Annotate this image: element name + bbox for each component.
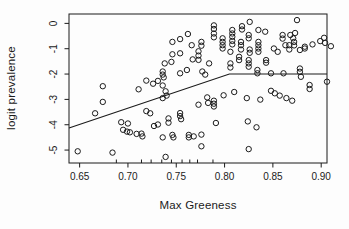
data-point [119,120,124,125]
data-point [280,36,285,41]
data-point [205,95,210,100]
data-point [230,42,235,47]
data-point [136,87,141,92]
data-point [190,57,195,62]
y-axis-tick-label: -1 [48,44,59,53]
data-point [247,19,252,24]
data-point [256,27,261,32]
data-point [169,59,174,64]
data-point [292,30,297,35]
scatter-plot-canvas: 0.650.700.750.800.850.900-1-2-3-4-5 Max … [0,0,349,229]
data-point [185,31,190,36]
x-axis-tick-label: 0.90 [311,171,331,182]
data-point [245,119,250,124]
data-point [298,74,303,79]
data-point [268,71,273,76]
data-point [92,111,97,116]
data-point [75,149,80,154]
data-point [263,29,268,34]
data-point [144,78,149,83]
x-axis-title: Max Greeness [159,199,236,211]
data-point [221,93,226,98]
data-point [321,35,326,40]
data-point [247,50,252,55]
x-axis-tick-label: 0.80 [215,171,235,182]
data-point [199,43,204,48]
data-point [246,36,251,41]
data-point [246,146,251,151]
y-axis-tick-label: -2 [48,69,59,78]
data-point [228,49,233,54]
data-point [199,144,204,149]
data-point [258,97,263,102]
x-axis-tick-label: 0.75 [167,171,187,182]
data-point [244,95,249,100]
data-point [291,36,296,41]
data-point [328,44,333,49]
data-point [254,125,259,130]
data-point [163,154,168,159]
data-point [307,86,312,91]
data-point [284,95,289,100]
x-axis-tick-label: 0.85 [263,171,283,182]
data-point [246,64,251,69]
data-point [177,51,182,56]
data-point [294,17,299,22]
data-point [256,49,261,54]
data-point [177,71,182,76]
data-point [160,135,165,140]
data-point [162,61,167,66]
data-point [199,132,204,137]
data-point [290,98,295,103]
scatter-figure: 0.650.700.750.800.850.900-1-2-3-4-5 Max … [0,0,349,229]
data-point [310,42,315,47]
data-point [239,27,244,32]
data-point [281,71,286,76]
data-point [170,52,175,57]
y-axis-tick-label: 0 [48,20,59,26]
data-point [196,102,201,107]
data-point [160,83,165,88]
data-point [236,57,241,62]
data-point [177,36,182,41]
y-axis-tick-label: -4 [48,120,59,129]
data-point [100,84,105,89]
plot-area: 0.650.700.750.800.850.900-1-2-3-4-5 [48,14,334,182]
data-point [155,78,160,83]
y-axis-tick-label: -5 [48,145,59,154]
data-point [178,117,183,122]
data-point [100,99,105,104]
data-point [206,61,211,66]
data-point [184,67,189,72]
data-point [189,43,194,48]
data-point [232,89,237,94]
data-point [220,46,225,51]
data-point [275,49,280,54]
fit-line [69,74,327,128]
x-axis-tick-label: 0.65 [70,171,90,182]
data-point [205,100,210,105]
data-point [255,71,260,76]
data-point [110,150,115,155]
y-axis-title: logit prevalence [5,46,17,130]
data-point [125,121,130,126]
data-point [170,39,175,44]
x-axis-tick-label: 0.70 [118,171,138,182]
data-point [211,35,216,40]
data-point [213,120,218,125]
y-axis-tick-label: -3 [48,95,59,104]
data-point [277,93,282,98]
